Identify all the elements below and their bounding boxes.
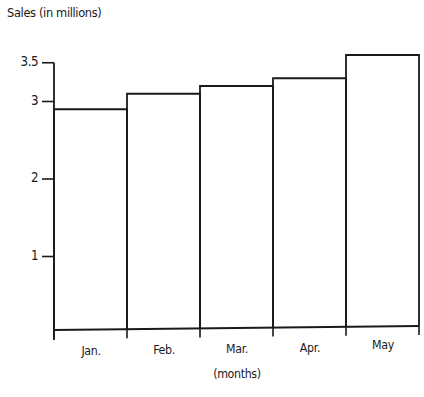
sales-bar-chart: Sales (in millions) 1233.5 Jan.Feb.Mar.A… — [0, 0, 424, 397]
x-category-label: Jan. — [61, 343, 121, 358]
bar-feb — [127, 94, 200, 329]
axes-group — [42, 63, 419, 340]
x-category-label: Apr. — [280, 340, 340, 355]
y-tick-label: 3 — [13, 92, 39, 108]
bar-may — [346, 55, 419, 327]
x-axis-line — [54, 326, 419, 330]
y-tick-label: 2 — [13, 169, 39, 185]
x-axis-title: (months) — [203, 366, 271, 381]
x-category-label: May — [353, 337, 413, 352]
y-tick-label: 1 — [13, 247, 39, 263]
bars-group — [54, 55, 419, 330]
bar-mar — [200, 86, 273, 328]
x-category-label: Mar. — [207, 341, 267, 356]
bar-jan — [54, 109, 127, 330]
y-tick-label: 3.5 — [13, 53, 39, 69]
bar-apr — [273, 78, 346, 327]
x-category-label: Feb. — [134, 342, 194, 357]
